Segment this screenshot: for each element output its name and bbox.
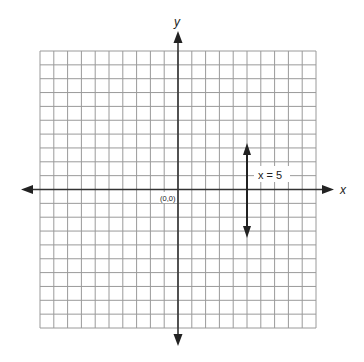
x-axis-left-arrow-icon bbox=[21, 185, 33, 194]
y-axis-bottom-arrow-icon bbox=[174, 334, 183, 346]
line-x-equals-5 bbox=[243, 143, 251, 238]
y-axis-label: y bbox=[173, 15, 181, 29]
coordinate-plane: x y (0,0) x = 5 bbox=[0, 0, 364, 362]
line-top-arrow-icon bbox=[243, 143, 251, 155]
line-bottom-arrow-icon bbox=[243, 226, 251, 238]
line-equation-label: x = 5 bbox=[258, 169, 282, 181]
y-axis-top-arrow-icon bbox=[174, 31, 183, 43]
x-axis-right-arrow-icon bbox=[322, 185, 334, 194]
x-axis-label: x bbox=[339, 183, 347, 197]
origin-label: (0,0) bbox=[160, 194, 176, 203]
